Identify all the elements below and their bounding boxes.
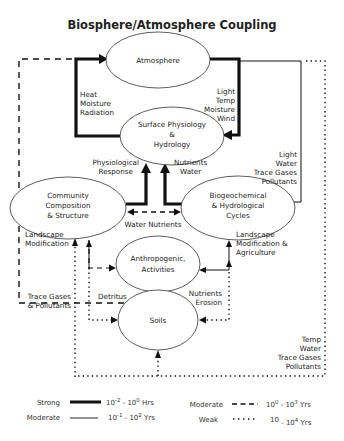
svg-text:Water: Water — [300, 344, 321, 353]
label-landscape-modification-agriculture: Landscape Modification & Agriculture — [236, 230, 288, 257]
svg-text:Trace Gases: Trace Gases — [27, 292, 71, 301]
svg-text:Temp: Temp — [215, 96, 236, 105]
legend-strong: Strong 10-2 - 100 Hrs — [37, 397, 154, 407]
node-anthro-label-2: Activities — [142, 265, 175, 274]
svg-text:Strong: Strong — [37, 399, 60, 407]
label-nutrients-water: Nutrients Water — [174, 158, 207, 176]
node-soils[interactable]: Soils — [118, 290, 198, 350]
svg-text:Pollutants: Pollutants — [262, 177, 298, 186]
label-trace-gases-pollutants: Trace Gases & Pollutants — [27, 292, 71, 310]
svg-text:100 - 103 Yrs: 100 - 103 Yrs — [266, 399, 311, 409]
svg-text:Heat: Heat — [80, 90, 97, 99]
node-surface-label-3: Hydrology — [154, 140, 191, 149]
node-soils-label: Soils — [150, 316, 167, 325]
label-detritus: Detritus — [98, 292, 127, 301]
svg-text:Wind: Wind — [217, 114, 235, 123]
svg-text:Water: Water — [276, 159, 297, 168]
svg-text:Light: Light — [279, 150, 297, 159]
svg-text:& Pollutants: & Pollutants — [28, 301, 72, 310]
edge-anthro-biogeo-thin — [199, 240, 232, 273]
svg-text:Response: Response — [98, 167, 133, 176]
label-temp-water-trace-pollutants: Temp Water Trace Gases Pollutants — [277, 335, 322, 371]
svg-text:Modification: Modification — [25, 239, 69, 248]
svg-text:10-2 - 100 Hrs: 10-2 - 100 Hrs — [106, 397, 154, 407]
svg-text:Temp: Temp — [301, 335, 322, 344]
svg-text:10 - 104 Yrs: 10 - 104 Yrs — [270, 416, 312, 427]
svg-text:Pollutants: Pollutants — [286, 362, 322, 371]
svg-text:Physiological: Physiological — [92, 158, 139, 167]
label-heat-moisture-radiation: Heat Moisture Radiation — [80, 90, 114, 117]
svg-text:Radiation: Radiation — [80, 108, 114, 117]
node-anthro-label-1: Anthropogenic, — [131, 254, 186, 263]
node-community-label-3: & Structure — [47, 211, 89, 220]
svg-text:Moisture: Moisture — [80, 99, 112, 108]
svg-text:Trace Gases: Trace Gases — [253, 168, 297, 177]
edge-biogeo-to-surface-strong — [160, 163, 182, 204]
legend: Strong 10-2 - 100 Hrs Moderate 10-1 - 10… — [27, 397, 312, 427]
svg-text:Nutrients: Nutrients — [174, 158, 207, 167]
svg-text:Agriculture: Agriculture — [236, 248, 276, 257]
node-surface-physiology[interactable]: Surface Physiology & Hydrology — [120, 107, 224, 165]
node-biogeo-label-2: & Hydrological — [212, 201, 265, 210]
legend-weak-dotted: Weak 10 - 104 Yrs — [199, 416, 312, 427]
node-biogeo-label-1: Biogeochemical — [210, 191, 267, 200]
node-community-label-2: Composition — [46, 201, 91, 210]
svg-text:Landscape: Landscape — [25, 230, 64, 239]
node-surface-label-1: Surface Physiology — [138, 120, 207, 129]
svg-text:Light: Light — [217, 87, 235, 96]
legend-moderate-thin: Moderate 10-1 - 102 Yrs — [27, 412, 155, 422]
svg-text:Moderate: Moderate — [27, 414, 60, 422]
label-nutrients-erosion: Nutrients Erosion — [189, 289, 222, 307]
label-landscape-modification: Landscape Modification — [25, 230, 69, 248]
label-water-nutrients: Water Nutrients — [125, 220, 182, 229]
edge-soils-to-community-dotted — [72, 238, 78, 377]
svg-text:10-1 - 102 Yrs: 10-1 - 102 Yrs — [108, 412, 155, 422]
node-community-label-1: Community — [47, 191, 89, 200]
svg-text:Moisture: Moisture — [204, 105, 236, 114]
svg-text:Landscape: Landscape — [236, 230, 275, 239]
svg-text:Nutrients: Nutrients — [189, 289, 222, 298]
legend-moderate-dashed: Moderate 100 - 103 Yrs — [190, 399, 312, 409]
node-surface-label-2: & — [169, 130, 175, 139]
edge-community-to-anthro-dashed — [89, 240, 116, 272]
node-biogeo-label-3: Cycles — [226, 211, 250, 220]
svg-text:Moderate: Moderate — [190, 401, 223, 409]
node-atmosphere-label: Atmosphere — [136, 56, 180, 65]
edge-community-biogeo-dashed — [127, 209, 181, 216]
coupling-diagram: Biosphere/Atmosphere Coupling — [0, 0, 344, 441]
diagram-title: Biosphere/Atmosphere Coupling — [67, 18, 276, 32]
svg-text:Erosion: Erosion — [196, 298, 222, 307]
svg-text:Weak: Weak — [199, 416, 219, 424]
svg-text:Trace Gases: Trace Gases — [277, 353, 321, 362]
edge-anthro-to-community-thin — [86, 240, 92, 268]
label-physiological-response: Physiological Response — [92, 158, 139, 176]
svg-text:Water: Water — [180, 167, 201, 176]
svg-text:Modification &: Modification & — [236, 239, 288, 248]
node-atmosphere[interactable]: Atmosphere — [106, 32, 210, 88]
node-anthropogenic[interactable]: Anthropogenic, Activities — [116, 236, 200, 292]
